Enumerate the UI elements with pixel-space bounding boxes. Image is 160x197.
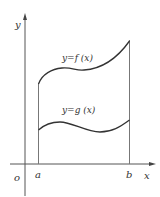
bound-a-label: a [35, 169, 41, 180]
y-axis-arrow-icon [23, 13, 27, 20]
y-axis-label: y [14, 19, 21, 30]
x-axis-label: x [144, 170, 150, 181]
curve-g-label: y=g (x) [61, 105, 96, 115]
curve-f-label: y=f (x) [61, 53, 93, 63]
bound-b-label: b [126, 169, 132, 180]
origin-label: o [14, 172, 20, 183]
diagram-canvas: y x o a b y=f (x) y=g (x) [0, 0, 160, 197]
curve-g [39, 120, 130, 132]
x-axis-arrow-icon [149, 162, 156, 166]
